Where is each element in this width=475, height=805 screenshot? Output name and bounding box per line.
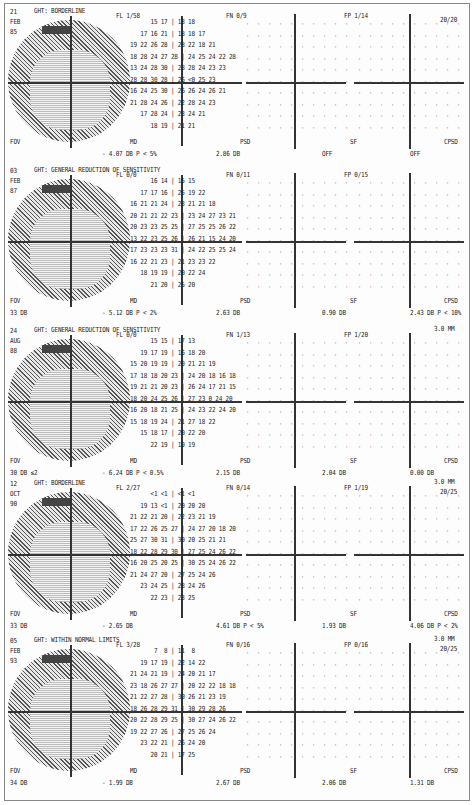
threshold-row: 15 15 | 17 13 — [130, 337, 195, 345]
threshold-row: 19 13 <1 | 20 20 20 — [130, 502, 205, 510]
threshold-row: 20 22 28 29 25 | 30 27 24 26 22 — [130, 716, 236, 724]
grayscale-horizontal-axis — [8, 82, 130, 84]
threshold-row: 20 21 | 17 25 — [130, 751, 195, 759]
pattern-standard-deviation: 4.61 DB P < 5% — [216, 622, 264, 630]
pupil-size: 3.0 MM — [434, 635, 454, 643]
pattern-deviation-plot: ········································… — [354, 492, 464, 607]
short-term-fluctuation: OFF — [322, 150, 332, 158]
grayscale-vertical-axis — [70, 488, 72, 620]
false-negatives: FN 1/13 — [226, 331, 250, 339]
threshold-row: 15 20 19 19 | 20 21 21 19 — [130, 360, 215, 368]
threshold-row: 22 23 | 23 25 — [130, 594, 195, 602]
total-deviation-plot: ········································… — [242, 20, 352, 135]
psd-label: PSD — [240, 767, 250, 775]
grayscale-plot — [8, 492, 130, 614]
threshold-row: 20 23 23 25 25 | 27 25 25 26 22 — [130, 223, 236, 231]
grayscale-plot — [8, 649, 130, 771]
threshold-row: 18 19 19 | 20 22 24 — [130, 269, 205, 277]
ght-result: GHT: WITHIN NORMAL LIMITS — [34, 636, 119, 644]
threshold-row: 17 17 16 | 25 19 22 — [130, 189, 205, 197]
threshold-row: 22 19 | 19 19 — [130, 441, 195, 449]
exam-day: 03 — [10, 167, 17, 175]
threshold-row: 28 28 30 28 | 26 <0 25 23 — [130, 76, 215, 84]
mean-deviation: - 5.12 DB P < 2% — [102, 309, 157, 317]
false-positives: FP 0/15 — [344, 171, 368, 179]
sf-label: SF — [350, 610, 357, 618]
exam-day: 21 — [10, 8, 17, 16]
fovea-value: 33 DB — [10, 309, 27, 317]
pattern-deviation-plot: ········································… — [354, 20, 464, 135]
grayscale-horizontal-axis — [8, 401, 130, 403]
pattern-standard-deviation: 2.63 DB — [216, 309, 240, 317]
psd-label: PSD — [240, 457, 250, 465]
total-deviation-plot: ········································… — [242, 649, 352, 764]
psd-label: PSD — [240, 138, 250, 146]
ght-result: GHT: GENERAL REDUCTION OF SENSITIVITY — [34, 166, 160, 174]
threshold-row: 21 28 24 26 | 22 28 24 23 — [130, 99, 215, 107]
grayscale-horizontal-axis — [8, 241, 130, 243]
threshold-row: 16 24 25 30 | 26 26 24 26 21 — [130, 87, 226, 95]
short-term-fluctuation: 2.06 DB — [322, 779, 346, 787]
threshold-row: 19 21 21 20 23 | 26 24 17 21 15 — [130, 383, 236, 391]
threshold-row: 17 22 26 25 27 | 24 27 20 18 20 — [130, 525, 236, 533]
threshold-row: 23 18 26 27 27 | 20 22 22 18 18 — [130, 682, 236, 690]
false-negatives: FN 0/14 — [226, 484, 250, 492]
md-label: MD — [130, 457, 137, 465]
visual-field-panel: 03 FEB 87 GHT: GENERAL REDUCTION OF SENS… — [4, 165, 470, 323]
pattern-standard-deviation: 2.67 DB — [216, 779, 240, 787]
threshold-row: 16 22 21 23 | 21 23 23 22 — [130, 258, 215, 266]
grayscale-vertical-axis — [70, 16, 72, 148]
cpsd-label: CPSD — [444, 457, 458, 465]
threshold-row: 19 17 19 | 22 14 22 — [130, 659, 205, 667]
pattern-deviation-plot: ········································… — [354, 179, 464, 294]
threshold-row: 21 22 27 28 | 30 26 21 23 19 — [130, 693, 226, 701]
threshold-row: 15 17 | 18 18 — [130, 18, 215, 26]
exam-day: 24 — [10, 327, 17, 335]
sf-label: SF — [350, 138, 357, 146]
fovea-label: FOV — [10, 457, 20, 465]
ght-result: GHT: BORDERLINE — [34, 7, 85, 15]
grayscale-vertical-axis — [70, 645, 72, 777]
pattern-standard-deviation: 2.15 DB — [216, 469, 240, 477]
corrected-psd: 0.00 DB — [410, 469, 434, 477]
cpsd-label: CPSD — [444, 297, 458, 305]
sf-label: SF — [350, 767, 357, 775]
psd-label: PSD — [240, 610, 250, 618]
threshold-row: 23 24 25 | 28 24 26 — [130, 582, 205, 590]
threshold-row: 16 14 | 15 15 — [130, 177, 195, 185]
md-label: MD — [130, 610, 137, 618]
threshold-row: 16 21 21 24 | 23 21 21 18 — [130, 200, 215, 208]
threshold-row: 17 23 23 23 31 | 24 22 25 25 24 — [130, 246, 236, 254]
md-label: MD — [130, 767, 137, 775]
threshold-row: 15 18 17 | 20 22 20 — [130, 429, 205, 437]
threshold-row: 18 20 24 25 26 | 27 23 0 24 20 — [130, 395, 232, 403]
mean-deviation: - 1.99 DB — [102, 779, 133, 787]
md-label: MD — [130, 297, 137, 305]
grayscale-plot — [8, 20, 130, 142]
grayscale-horizontal-axis — [8, 554, 130, 556]
threshold-row: 21 24 21 19 | 24 20 21 17 — [130, 670, 215, 678]
false-negatives: FN 0/16 — [226, 641, 250, 649]
total-deviation-plot: ········································… — [242, 492, 352, 607]
threshold-row: <1 <1 | <1 <1 — [130, 490, 195, 498]
grayscale-horizontal-axis — [8, 711, 130, 713]
threshold-row: 18 26 28 29 31 | 30 29 28 26 — [130, 705, 226, 713]
short-term-fluctuation: 2.04 DB — [322, 469, 346, 477]
visual-field-panel: 05 FEB 93 GHT: WITHIN NORMAL LIMITS FL 3… — [4, 635, 470, 793]
psd-label: PSD — [240, 297, 250, 305]
visual-field-panel: 24 AUG 88 GHT: GENERAL REDUCTION OF SENS… — [4, 325, 470, 483]
short-term-fluctuation: 0.90 DB — [322, 309, 346, 317]
cpsd-label: CPSD — [444, 767, 458, 775]
threshold-row: 16 20 18 21 25 | 24 23 22 24 20 — [130, 406, 236, 414]
false-positives: FP 1/19 — [344, 484, 368, 492]
visual-field-panel: 12 OCT 90 GHT: BORDERLINE FL 2/27 FN 0/1… — [4, 478, 470, 636]
pupil-size: 3.0 MM — [434, 325, 454, 333]
fovea-value: 33 DB — [10, 622, 27, 630]
threshold-row: 23 22 21 | 26 24 20 — [130, 739, 205, 747]
threshold-row: 19 22 26 28 | 28 22 18 21 — [130, 41, 215, 49]
grayscale-vertical-axis — [70, 175, 72, 307]
threshold-row: 18 28 24 27 28 | 24 25 24 22 28 — [130, 53, 236, 61]
cpsd-label: CPSD — [444, 610, 458, 618]
short-term-fluctuation: 1.93 DB — [322, 622, 346, 630]
mean-deviation: - 2.65 DB — [102, 622, 133, 630]
